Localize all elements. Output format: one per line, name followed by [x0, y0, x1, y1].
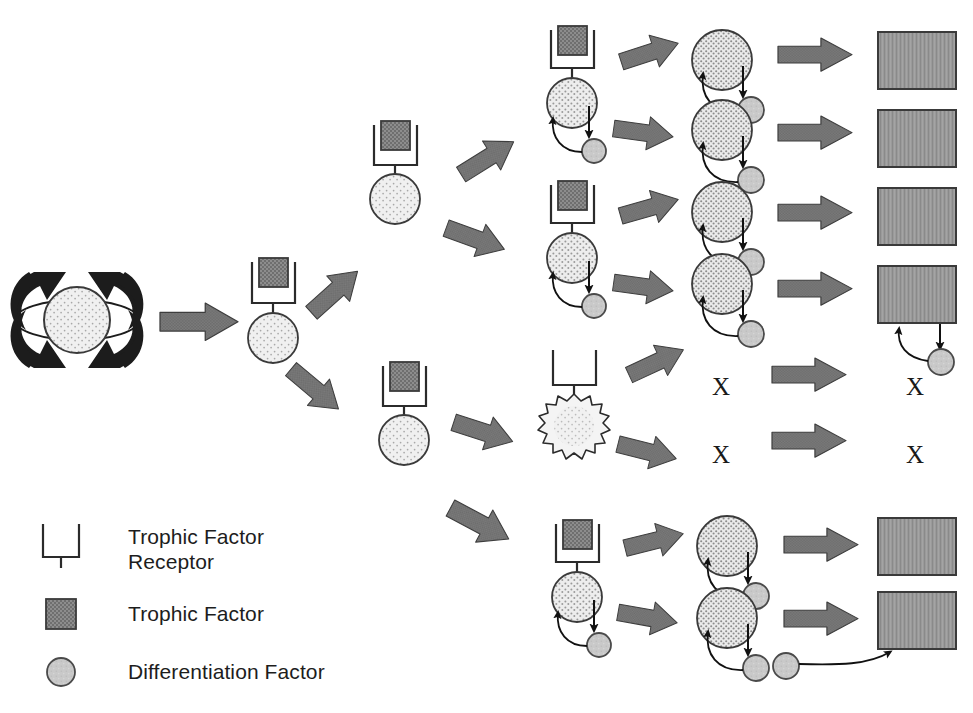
legend-trophic-factor-square-icon	[46, 599, 76, 629]
cell-body	[379, 415, 429, 465]
terminal-cell-2	[878, 110, 956, 167]
arrow-burst-to-x-lower	[614, 428, 680, 475]
gen4-cell-3	[552, 520, 611, 657]
arrow-gen5c-to-terminal3	[778, 196, 852, 229]
arrow-gen5e-to-terminal5	[784, 528, 858, 561]
terminal-cell-6-group	[773, 592, 956, 679]
self-renewing-stem-cell	[11, 272, 144, 368]
terminal-cell-5	[878, 518, 956, 575]
arrow-gen3u-to-gen4-b	[440, 212, 510, 265]
terminal-cell-6	[878, 592, 956, 649]
arrow-stem-to-gen2	[160, 303, 238, 340]
trophic-factor-square-icon	[563, 520, 592, 549]
terminal-cell-4-group	[878, 266, 956, 375]
arrow-gen5b-to-terminal2	[778, 116, 852, 149]
gen3-cell-lower	[379, 362, 429, 465]
terminal-cell-3	[878, 188, 956, 245]
arrow-gen4c1-to-gen5b	[611, 112, 675, 153]
differentiation-factor-circle-icon-free	[773, 653, 799, 679]
arrow-gen5d-to-terminal4	[778, 272, 852, 305]
gen3-cell-upper	[370, 121, 420, 224]
terminal-cell-4	[878, 266, 956, 323]
arrow-x-upper-to-x	[772, 358, 846, 391]
receptor-icon-empty	[553, 350, 596, 394]
dying-cell-burst	[538, 350, 610, 459]
differentiation-factor-circle-icon	[582, 139, 606, 163]
arrow-burst-to-x-upper	[622, 335, 690, 391]
legend-label-receptor: Trophic Factor Receptor	[128, 524, 264, 574]
differentiation-factor-circle-icon	[582, 294, 606, 318]
differentiation-factor-circle-icon	[928, 349, 954, 375]
arrow-gen2-to-gen3-down	[280, 356, 350, 422]
legend-label-trophic-factor: Trophic Factor	[128, 601, 264, 626]
arrow-gen2-to-gen3-up	[300, 259, 369, 326]
differentiation-factor-circle-icon	[738, 321, 764, 347]
trophic-factor-square-icon	[381, 121, 410, 150]
trophic-factor-square-icon	[259, 258, 288, 287]
arrow-gen3l-to-gen4-bottom	[442, 492, 517, 555]
trophic-factor-square-icon	[558, 26, 587, 55]
differentiation-factor-circle-icon	[743, 655, 769, 681]
arrow-gen4c2-to-gen5c	[616, 183, 683, 232]
trophic-factor-square-icon	[390, 362, 419, 391]
trophic-factor-square-icon	[558, 181, 587, 210]
paracrine-arrow	[799, 652, 890, 664]
arrow-x-lower-to-x	[772, 424, 846, 457]
legend-receptor-icon	[43, 524, 79, 568]
arrow-gen4c2-to-gen5d	[611, 266, 675, 307]
gen4-cell-1	[547, 26, 606, 163]
arrow-gen3u-to-gen4-a	[452, 127, 523, 189]
gen2-cell-1	[248, 258, 298, 363]
legend-label-differentiation-factor: Differentiation Factor	[128, 659, 325, 684]
dead-marker-col6-upper: X	[906, 374, 924, 399]
dead-marker-col6-lower: X	[906, 442, 924, 467]
gen4-cell-2	[547, 181, 606, 318]
autocrine-feedback-arrow	[899, 329, 928, 361]
legend-differentiation-factor-circle-icon	[47, 658, 75, 686]
arrow-gen4c1-to-gen5a	[616, 27, 683, 77]
arrow-gen5f-to-terminal6	[784, 602, 858, 635]
cell-body	[248, 313, 298, 363]
dead-marker-col5-lower: X	[712, 442, 730, 467]
arrow-gen3l-to-burst	[448, 406, 518, 458]
dead-marker-col5-upper: X	[712, 374, 730, 399]
arrow-gen5a-to-terminal1	[778, 38, 852, 71]
figure-root: Trophic Factor Receptor Trophic Factor D…	[0, 0, 973, 713]
arrow-gen4c3-to-gen5f	[615, 596, 680, 639]
cell-body	[370, 174, 420, 224]
differentiation-factor-circle-icon	[587, 633, 611, 657]
arrow-gen4c3-to-gen5e	[621, 517, 687, 564]
terminal-cell-1	[878, 32, 956, 89]
